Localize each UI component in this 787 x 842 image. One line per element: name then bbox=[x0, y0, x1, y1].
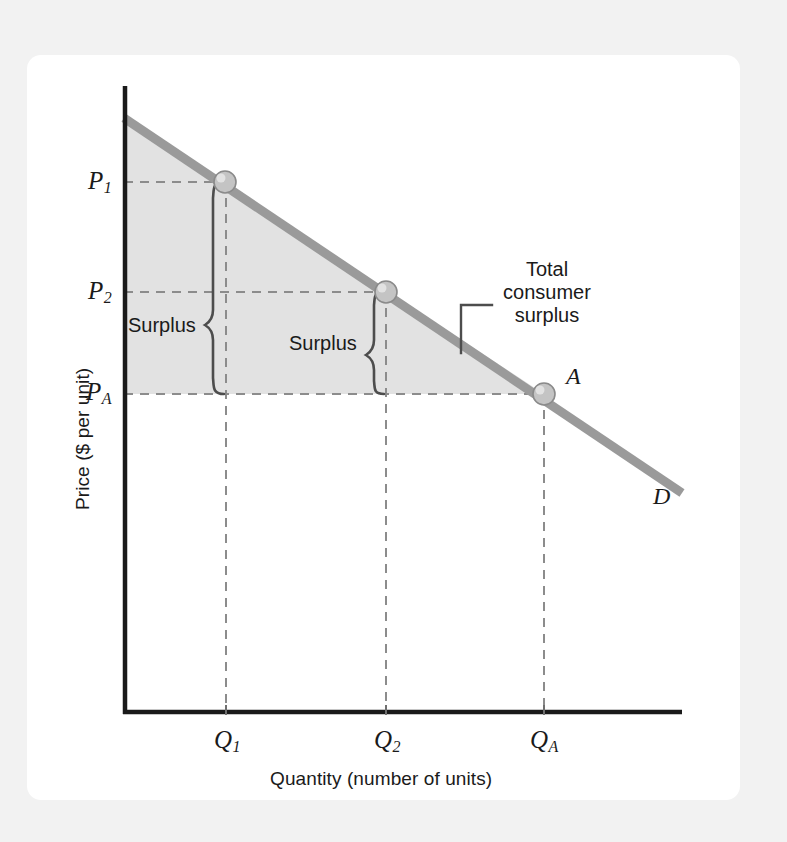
point-a-label: A bbox=[566, 363, 581, 391]
total-consumer-surplus-line-3: surplus bbox=[487, 304, 607, 327]
marker-q2-p2 bbox=[375, 281, 397, 303]
demand-curve-chart bbox=[0, 0, 787, 842]
y-tick-p2-base: P bbox=[88, 277, 103, 304]
y-tick-p1-base: P bbox=[88, 167, 103, 194]
y-tick-label-p1: P1 bbox=[88, 167, 112, 197]
demand-curve-label: D bbox=[653, 483, 670, 511]
y-tick-label-pa: PA bbox=[86, 378, 112, 408]
y-tick-pa-base: P bbox=[86, 378, 101, 405]
total-consumer-surplus-line-1: Total bbox=[487, 258, 607, 281]
marker-q1-p1 bbox=[214, 171, 236, 193]
x-axis-title: Quantity (number of units) bbox=[270, 768, 492, 790]
x-tick-qa-base: Q bbox=[530, 726, 548, 753]
y-tick-pa-sub: A bbox=[101, 390, 111, 407]
x-tick-q2-base: Q bbox=[374, 726, 392, 753]
total-consumer-surplus-line-2: consumer bbox=[487, 281, 607, 304]
surplus-label-2: Surplus bbox=[289, 332, 357, 355]
y-tick-p2-sub: 2 bbox=[103, 289, 112, 306]
marker-point-a bbox=[533, 383, 555, 405]
figure-page: Price ($ per unit) Quantity (number of u… bbox=[0, 0, 787, 842]
y-tick-label-p2: P2 bbox=[88, 277, 112, 307]
x-tick-q1-base: Q bbox=[214, 726, 232, 753]
surplus-label-1: Surplus bbox=[128, 314, 196, 337]
x-tick-label-q1: Q1 bbox=[214, 726, 241, 756]
x-tick-label-q2: Q2 bbox=[374, 726, 401, 756]
x-tick-label-qa: QA bbox=[530, 726, 558, 756]
x-tick-q1-sub: 1 bbox=[232, 738, 241, 755]
total-consumer-surplus-label: Total consumer surplus bbox=[487, 258, 607, 327]
y-tick-p1-sub: 1 bbox=[103, 179, 112, 196]
x-tick-qa-sub: A bbox=[548, 738, 558, 755]
x-tick-q2-sub: 2 bbox=[392, 738, 401, 755]
